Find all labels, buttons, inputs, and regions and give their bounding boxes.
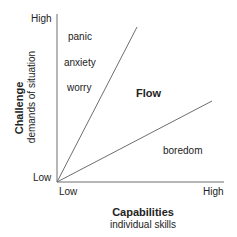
region-label-worry: worry (67, 82, 91, 94)
y-axis-title: Challenge (13, 82, 25, 135)
region-label-anxiety: anxiety (64, 57, 96, 69)
y-axis-subtitle: demands of situation (26, 51, 38, 143)
x-axis-title: Capabilities (112, 206, 174, 218)
upper-flow-boundary-line (57, 27, 137, 182)
region-label-flow: Flow (136, 87, 161, 99)
x-axis-subtitle: individual skills (110, 219, 176, 231)
region-label-panic: panic (68, 31, 92, 43)
y-axis-low-label: Low (33, 172, 51, 184)
x-axis-high-label: High (203, 186, 224, 198)
y-axis-high-label: High (31, 13, 52, 25)
lower-flow-boundary-line (57, 101, 212, 182)
x-axis-low-label: Low (59, 186, 77, 198)
region-label-boredom: boredom (163, 145, 202, 157)
flow-diagram: High Low Challenge demands of situation … (0, 0, 237, 237)
